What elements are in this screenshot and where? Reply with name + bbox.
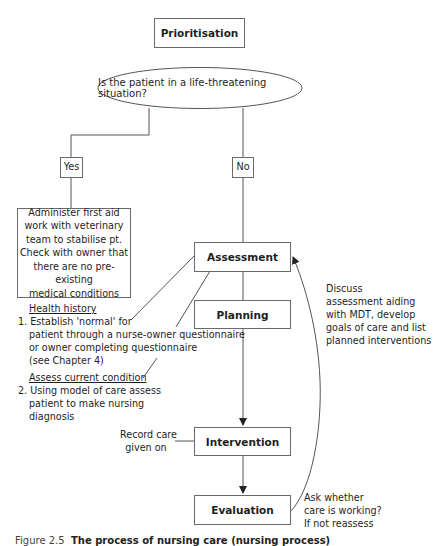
prioritisation-label: Prioritisation [161,27,239,39]
health-history-line: or owner completing questionnaire [29,342,197,355]
evaluation-note-line: If not reassess [304,518,373,531]
figure-caption-text: The process of nursing care (nursing pro… [71,535,330,546]
intervention-box: Intervention [194,427,291,456]
first-aid-box: Administer first aid work with veterinar… [17,208,131,298]
intervention-label: Intervention [206,436,279,448]
planning-label: Planning [217,309,269,321]
planning-note-line: assessment aiding [326,296,415,309]
figure-caption: Figure 2.5 The process of nursing care (… [15,535,330,546]
evaluation-note-line: Ask whether [304,492,364,505]
first-aid-line: medical conditions [29,287,119,301]
health-history-line: (see Chapter 4) [29,355,104,368]
first-aid-line: work with veterinary [24,219,123,233]
planning-note-line: planned interventions [326,335,431,348]
assess-condition-line: patient to make nursing [29,398,144,411]
evaluation-note-line: care is working? [304,505,382,518]
assessment-box: Assessment [194,242,291,272]
yes-box: Yes [60,157,83,178]
first-aid-line: Check with owner that [20,246,128,260]
health-history-line: patient through a nurse-owner questionna… [29,329,245,342]
evaluation-label: Evaluation [211,504,274,516]
decision-question: Is the patient in a life-threatening sit… [98,67,302,108]
assess-condition-line: diagnosis [29,411,74,424]
decision-question-text: Is the patient in a life-threatening sit… [98,77,302,99]
first-aid-line: there are no pre-existing [18,260,130,287]
record-care-line: given on [120,442,172,455]
no-label: No [236,161,249,174]
planning-note-line: with MDT, develop [326,309,415,322]
prioritisation-box: Prioritisation [154,18,245,48]
first-aid-line: Administer first aid [28,206,119,220]
no-box: No [232,157,254,178]
assessment-label: Assessment [207,251,278,263]
planning-note-line: Discuss [326,283,362,296]
health-history-line: 1. Establish 'normal' for [18,316,132,329]
planning-box: Planning [194,300,291,329]
health-history-heading: Health history [29,303,97,316]
record-care-line: Record care [120,429,172,442]
figure-number: Figure 2.5 [15,535,65,546]
evaluation-box: Evaluation [194,495,291,525]
yes-label: Yes [64,161,80,174]
assess-condition-line: 2. Using model of care assess [18,385,161,398]
assess-condition-heading: Assess current condition [29,372,147,385]
first-aid-line: team to stabilise pt. [26,233,122,247]
planning-note-line: goals of care and list [326,322,426,335]
